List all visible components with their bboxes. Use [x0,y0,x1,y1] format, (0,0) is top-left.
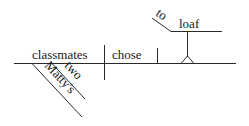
infinitive-verb-word: loaf [179,16,200,31]
sentence-diagram: classmates chose two Matty's to loaf [0,0,249,126]
verb-word: chose [112,47,142,62]
subject-word: classmates [32,47,88,62]
pedestal-base [181,56,194,64]
